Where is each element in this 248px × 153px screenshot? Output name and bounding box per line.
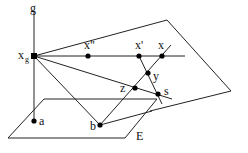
- label-xg-sub: g: [25, 55, 29, 64]
- point-x-prime: [136, 53, 141, 58]
- label-x-prime: x': [135, 38, 143, 52]
- label-x-double-prime: x": [84, 38, 95, 52]
- point-s: [155, 91, 160, 96]
- point-xg: [31, 53, 37, 59]
- label-xg: x: [18, 48, 24, 62]
- plane-e: [8, 99, 157, 138]
- label-y: y: [153, 69, 159, 83]
- line-b-right: [100, 111, 152, 125]
- label-b: b: [90, 119, 96, 133]
- point-x-double-prime: [85, 53, 90, 58]
- label-z: z: [120, 81, 125, 95]
- point-y: [145, 70, 150, 75]
- point-b: [97, 122, 102, 127]
- label-e: E: [136, 129, 143, 143]
- point-a: [31, 118, 36, 123]
- label-s: s: [164, 84, 169, 98]
- point-x: [159, 53, 164, 58]
- label-g: g: [30, 1, 36, 15]
- label-a: a: [39, 114, 45, 128]
- point-z: [132, 85, 137, 90]
- label-x: x: [158, 38, 164, 52]
- diagram-canvas: g x g x" x' x y z s a b E: [0, 0, 248, 153]
